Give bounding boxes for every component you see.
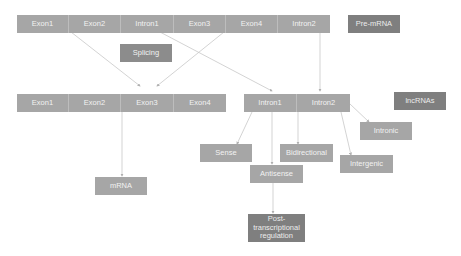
sense-box: Sense xyxy=(200,144,252,162)
pre-mrna-row: Exon1 Exon2 Intron1 Exon3 Exon4 Intron2 xyxy=(17,15,330,33)
spliced-exon4: Exon4 xyxy=(174,94,226,112)
intron1-box: Intron1 xyxy=(244,94,297,112)
pre-mrna-label: Pre-mRNA xyxy=(348,15,400,33)
spliced-exon2: Exon2 xyxy=(69,94,121,112)
segment-intron2: Intron2 xyxy=(278,15,330,33)
segment-exon2: Exon2 xyxy=(69,15,121,33)
spliced-exon3: Exon3 xyxy=(121,94,174,112)
intergenic-box: Intergenic xyxy=(340,155,393,173)
mrna-box: mRNA xyxy=(95,177,147,195)
post-transcriptional-regulation-box: Post-transcriptional regulation xyxy=(248,214,305,242)
antisense-box: Antisense xyxy=(250,165,303,183)
spliced-exon1: Exon1 xyxy=(17,94,69,112)
segment-exon1: Exon1 xyxy=(17,15,69,33)
lncrnas-label: lncRNAs xyxy=(394,92,446,110)
segment-exon4: Exon4 xyxy=(226,15,278,33)
segment-intron1: Intron1 xyxy=(121,15,174,33)
bidirectional-box: Bidirectional xyxy=(280,144,333,162)
introns-row: Intron1 Intron2 xyxy=(244,94,350,112)
spliced-exons-row: Exon1 Exon2 Exon3 Exon4 xyxy=(17,94,226,112)
intronic-box: Intronic xyxy=(360,122,412,140)
splicing-box: Splicing xyxy=(120,44,172,62)
intron2-box: Intron2 xyxy=(297,94,350,112)
segment-exon3: Exon3 xyxy=(174,15,226,33)
